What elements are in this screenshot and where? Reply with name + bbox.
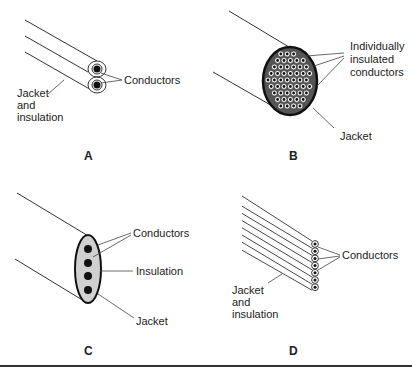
panel-b: Individually insulated conductors Jacket… <box>213 11 405 163</box>
conductor-icon <box>94 66 101 73</box>
label-conductors-b-1: Individually <box>350 40 405 52</box>
caption-d: D <box>289 344 298 358</box>
conductor-icon <box>84 259 92 267</box>
cable-types-diagram: Conductors Jacket and insulation A Indiv… <box>0 0 412 369</box>
label-jacket-c: Jacket <box>136 315 168 327</box>
panel-c: Conductors Insulation Jacket C <box>15 193 190 358</box>
label-conductors-b-2: insulated <box>350 53 394 65</box>
cable-d-drawing <box>242 196 312 290</box>
label-jacket-a-2: and <box>17 99 35 111</box>
label-conductors-a: Conductors <box>124 74 181 86</box>
conductor-icon <box>84 286 92 294</box>
label-jacket-d-2: and <box>232 296 250 308</box>
label-insulation-c: Insulation <box>136 265 183 277</box>
caption-b: B <box>289 149 298 163</box>
conductors-d <box>312 241 319 291</box>
cable-a-drawing <box>25 20 106 93</box>
panel-d: Conductors Jacket and insulation D <box>232 196 399 358</box>
panel-a: Conductors Jacket and insulation A <box>17 20 181 163</box>
label-jacket-a-1: Jacket <box>17 87 49 99</box>
conductor-icon <box>84 245 92 253</box>
label-jacket-b: Jacket <box>340 130 372 142</box>
leader-lines-a <box>48 73 122 94</box>
conductor-icon <box>84 272 92 280</box>
caption-c: C <box>84 344 93 358</box>
label-jacket-a-3: insulation <box>17 111 63 123</box>
label-conductors-d: Conductors <box>342 249 399 261</box>
caption-a: A <box>84 149 93 163</box>
label-jacket-d-3: insulation <box>232 308 278 320</box>
conductor-icon <box>94 82 101 89</box>
label-conductors-b-3: conductors <box>350 66 404 78</box>
label-conductors-c: Conductors <box>133 227 190 239</box>
label-jacket-d-1: Jacket <box>232 284 264 296</box>
